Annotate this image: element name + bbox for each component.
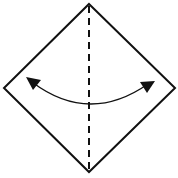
diagram-svg [0, 0, 178, 178]
origami-diagram [0, 0, 178, 178]
